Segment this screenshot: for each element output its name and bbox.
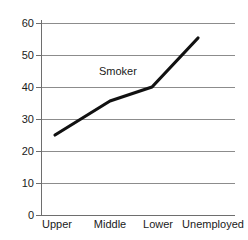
x-tick-unemployed: Unemployed xyxy=(178,214,248,228)
data-line-smoker xyxy=(55,38,198,135)
x-tick-middle: Middle xyxy=(84,214,136,228)
y-tick-10: 10 xyxy=(13,178,34,189)
x-tick-upper: Upper xyxy=(32,214,82,228)
series-annotation-smoker: Smoker xyxy=(99,64,137,78)
line-chart: 60 50 40 30 20 10 0 Upper Middle Lower xyxy=(0,0,248,240)
gridlines xyxy=(41,24,235,184)
y-tick-20: 20 xyxy=(13,146,34,157)
y-tick-50: 50 xyxy=(13,50,34,61)
chart-page: 60 50 40 30 20 10 0 Upper Middle Lower xyxy=(0,0,248,240)
y-tick-60: 60 xyxy=(13,18,34,29)
chart-canvas xyxy=(0,0,248,240)
y-tick-30: 30 xyxy=(13,114,34,125)
x-tick-lower: Lower xyxy=(134,214,182,228)
y-tick-0: 0 xyxy=(13,210,34,221)
y-tick-40: 40 xyxy=(13,82,34,93)
y-axis-ticks xyxy=(36,24,41,216)
